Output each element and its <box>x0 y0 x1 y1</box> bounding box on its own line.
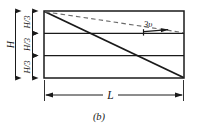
band-2-label: H/3 <box>22 38 32 52</box>
band-3-label: H/3 <box>22 61 32 75</box>
figure-caption: (b) <box>93 111 106 123</box>
length-label-L: L <box>106 89 113 101</box>
height-label-H: H <box>5 40 16 49</box>
beam-diagram-svg: 3υ H H/3 H/3 H/3 L (b) <box>0 0 197 129</box>
beam-diagram-figure: 3υ H H/3 H/3 H/3 L (b) <box>0 0 197 129</box>
band-1-label: H/3 <box>22 16 32 30</box>
angle-label: 3υ <box>143 19 153 29</box>
